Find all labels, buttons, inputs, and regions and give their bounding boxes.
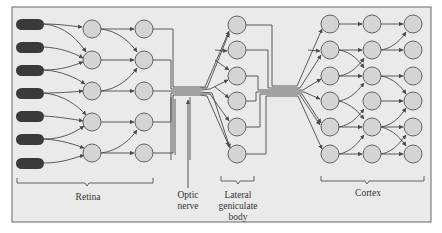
neuron [228,16,246,34]
neuron [228,145,246,163]
neuron [363,92,381,110]
neuron [135,51,153,69]
visual-pathway-diagram: Retina Optic nerve Lateral geniculate bo… [0,0,442,233]
lgn-label-line3: body [229,212,248,222]
neuron [363,67,381,85]
photoreceptor [16,19,44,30]
neuron [404,67,422,85]
neuron [228,67,246,85]
neuron [404,15,422,33]
neuron [363,15,381,33]
neuron [321,92,339,110]
neuron [363,118,381,136]
neuron [228,118,246,136]
neuron [228,92,246,110]
photoreceptor [16,111,44,122]
neuron [404,41,422,59]
lgn-label-line1: Lateral [225,190,252,200]
neuron [83,20,101,38]
diagram-canvas: Retina Optic nerve Lateral geniculate bo… [0,0,442,233]
optic-nerve-label-line1: Optic [177,190,198,200]
neuron [321,145,339,163]
lgn-label-line2: geniculate [218,201,257,211]
neuron [363,145,381,163]
neuron [363,41,381,59]
photoreceptor [16,158,44,169]
neuron [83,82,101,100]
photoreceptor [16,134,44,145]
neuron [321,118,339,136]
neuron [135,20,153,38]
retina-label: Retina [76,192,102,202]
neuron [135,82,153,100]
neuron [228,41,246,59]
neuron [83,51,101,69]
photoreceptor [16,65,44,76]
neuron [83,113,101,131]
neuron [404,92,422,110]
cortex-label: Cortex [355,188,381,198]
photoreceptor [16,42,44,53]
neuron [135,113,153,131]
neuron [321,41,339,59]
neuron [83,144,101,162]
neuron [404,118,422,136]
neuron [404,145,422,163]
neuron [135,144,153,162]
neuron [321,67,339,85]
photoreceptor [16,88,44,99]
neuron [321,15,339,33]
optic-nerve-label-line2: nerve [177,201,198,211]
